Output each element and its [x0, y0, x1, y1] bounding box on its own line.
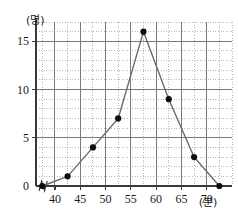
data-point-marker: 67.5, 3 [191, 154, 197, 160]
chart-canvas: 37.5, 042.5, 147.5, 452.5, 757.5, 1662.5… [0, 0, 238, 222]
y-tick-label: 15 [17, 34, 29, 48]
origin-label: 0 [23, 179, 29, 193]
data-point-marker: 72.5, 0 [216, 183, 222, 189]
x-tick-label: 60 [150, 192, 162, 206]
x-tick-label: 55 [125, 192, 137, 206]
data-point-marker: 62.5, 9 [166, 96, 172, 102]
data-point-marker: 52.5, 7 [115, 115, 121, 121]
data-point-marker: 37.5, 0 [39, 183, 45, 189]
y-axis-unit-label: (명) [26, 14, 45, 27]
data-point-marker: 42.5, 1 [65, 173, 71, 179]
data-point-marker: 47.5, 4 [90, 144, 96, 150]
frequency-polygon-chart: 37.5, 042.5, 147.5, 452.5, 757.5, 1662.5… [0, 0, 238, 222]
y-tick-label: 10 [17, 83, 29, 97]
x-tick-label: 45 [74, 192, 86, 206]
x-tick-label: 65 [175, 192, 187, 206]
y-tick-label: 5 [23, 131, 29, 145]
x-tick-label: 40 [49, 192, 61, 206]
x-axis-unit-label: (분) [199, 196, 218, 209]
x-tick-label: 50 [100, 192, 112, 206]
data-point-marker: 57.5, 16 [140, 29, 146, 35]
